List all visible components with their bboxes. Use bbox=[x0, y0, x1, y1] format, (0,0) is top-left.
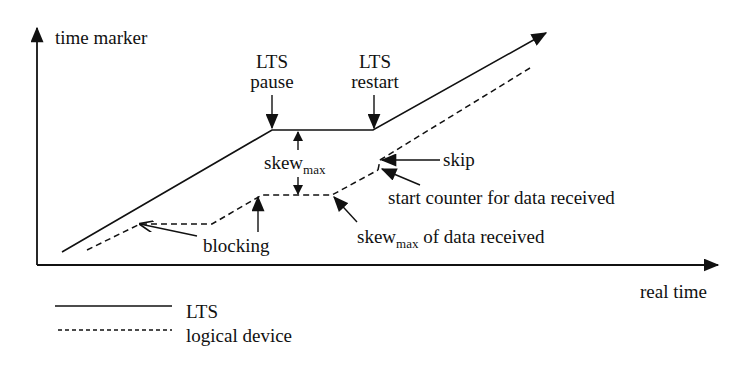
lts-pause-line2: pause bbox=[246, 72, 298, 91]
skew-max-data-label: skewmax of data received bbox=[357, 227, 545, 246]
x-axis-label: real time bbox=[640, 282, 707, 301]
skip-label: skip bbox=[443, 150, 475, 169]
lts-restart-line1: LTS bbox=[344, 52, 406, 71]
skew-max-data-base: skew bbox=[357, 226, 396, 247]
start-counter-label: start counter for data received bbox=[388, 188, 615, 207]
lts-restart-label: LTS restart bbox=[344, 52, 406, 91]
legend-logical-device-label: logical device bbox=[186, 326, 292, 345]
lts-pause-line1: LTS bbox=[246, 52, 298, 71]
y-axis-label: time marker bbox=[55, 28, 147, 47]
blocking-arrow bbox=[140, 224, 197, 236]
skew-max-data-arrow bbox=[334, 197, 357, 222]
legend-lines bbox=[55, 306, 172, 330]
skew-max-sub: max bbox=[303, 162, 325, 177]
legend-lts-label: LTS bbox=[186, 302, 218, 321]
skew-max-data-rest: of data received bbox=[418, 226, 544, 247]
blocking-label: blocking bbox=[203, 236, 270, 255]
skew-max-base: skew bbox=[264, 152, 303, 173]
lts-restart-line2: restart bbox=[344, 72, 406, 91]
lts-line bbox=[62, 33, 546, 252]
skew-max-label: skewmax bbox=[264, 153, 325, 172]
lts-pause-label: LTS pause bbox=[246, 52, 298, 91]
skew-max-data-sub: max bbox=[396, 236, 418, 251]
start-counter-arrow bbox=[382, 169, 420, 185]
